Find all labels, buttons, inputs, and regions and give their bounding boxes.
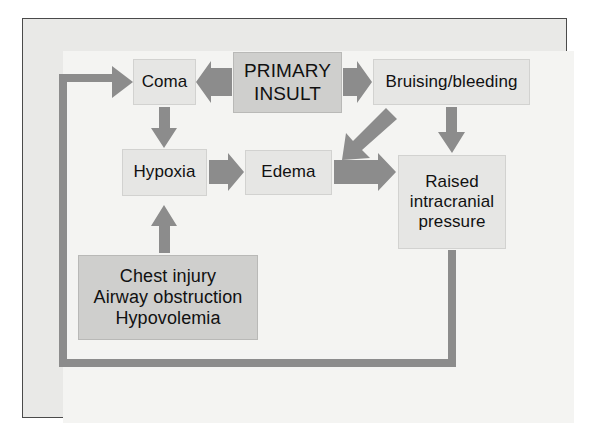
node-raised-icp-line3: pressure: [410, 212, 494, 232]
node-raised-intracranial-pressure[interactable]: Raised intracranial pressure: [398, 155, 506, 249]
node-edema-label: Edema: [261, 162, 315, 182]
edge-bruising-to-raised-icp: [438, 107, 465, 153]
node-raised-icp-line1: Raised: [410, 172, 494, 192]
node-coma-label: Coma: [142, 72, 188, 92]
edge-chest-to-hypoxia: [151, 205, 177, 253]
node-bruising-bleeding[interactable]: Bruising/bleeding: [373, 59, 530, 105]
edge-primary-to-coma: [196, 61, 232, 103]
node-chest-injury-line2: Airway obstruction: [94, 287, 243, 308]
node-primary-insult-line2: INSULT: [244, 83, 331, 105]
node-edema[interactable]: Edema: [245, 150, 332, 195]
node-hypoxia-label: Hypoxia: [133, 162, 195, 182]
node-primary-insult-text: PRIMARY INSULT: [244, 60, 331, 105]
edge-primary-to-bruising: [343, 61, 372, 103]
node-hypoxia[interactable]: Hypoxia: [122, 149, 207, 196]
node-chest-injury-text: Chest injury Airway obstruction Hypovole…: [94, 266, 243, 330]
node-chest-injury-line1: Chest injury: [94, 266, 243, 287]
edge-primary-to-edema-diagonal: [342, 108, 397, 160]
node-coma[interactable]: Coma: [133, 59, 196, 105]
node-chest-injury-line3: Hypovolemia: [94, 308, 243, 329]
node-bruising-bleeding-label: Bruising/bleeding: [385, 72, 517, 92]
figure-root: Coma PRIMARY INSULT Bruising/bleeding Hy…: [0, 0, 590, 434]
node-raised-icp-line2: intracranial: [410, 192, 494, 212]
edge-coma-to-hypoxia: [151, 107, 177, 148]
node-primary-insult[interactable]: PRIMARY INSULT: [233, 52, 342, 113]
node-chest-injury-group[interactable]: Chest injury Airway obstruction Hypovole…: [78, 255, 258, 340]
node-raised-icp-text: Raised intracranial pressure: [410, 172, 494, 232]
node-primary-insult-line1: PRIMARY: [244, 60, 331, 82]
edge-hypoxia-to-edema: [209, 153, 244, 191]
